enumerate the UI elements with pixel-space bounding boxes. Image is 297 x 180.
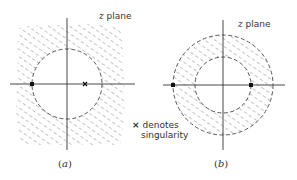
hatched-region-a <box>0 0 150 160</box>
singularity-marker-b-right <box>249 83 253 87</box>
legend-line2: singularity <box>132 130 188 140</box>
caption-b: (b) <box>214 158 228 169</box>
legend-cross-icon: × <box>132 120 140 130</box>
caption-a: (a) <box>58 158 72 169</box>
plane-text-b: plane <box>243 19 271 29</box>
plane-label-b: z plane <box>238 19 271 29</box>
legend: × denotes singularity <box>132 120 188 140</box>
singularity-marker-a-left <box>30 82 34 86</box>
legend-line1: denotes <box>142 120 178 130</box>
plane-label-a: z plane <box>99 11 132 21</box>
panel-a <box>0 0 150 160</box>
singularity-marker-b-left <box>171 83 175 87</box>
plane-text-a: plane <box>104 11 132 21</box>
